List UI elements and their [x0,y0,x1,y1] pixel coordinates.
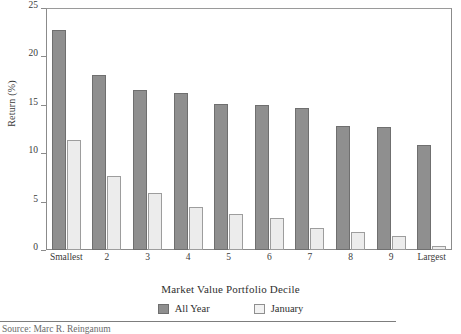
bar-group [92,8,121,250]
bar-all-year[interactable] [174,93,188,250]
legend-label-january: January [271,303,304,314]
y-axis-tick-label: 25 [29,1,39,11]
source-divider [0,321,396,322]
bar-january[interactable] [189,207,203,250]
bar-all-year[interactable] [133,90,147,250]
bar-group [255,8,284,250]
bar-january[interactable] [392,236,406,250]
legend-swatch-january-icon [254,304,265,314]
bar-group [336,8,365,250]
tick-mark [41,250,46,251]
legend-label-all-year: All Year [175,303,210,314]
bar-group [174,8,203,250]
y-axis-tick: 5 [0,202,46,203]
bar-group [417,8,446,250]
y-axis-tick-label: 5 [33,195,38,205]
chart-legend: All Year January [0,303,461,314]
bar-january[interactable] [229,214,243,250]
source-note: Source: Marc R. Reinganum [2,324,111,334]
bar-january[interactable] [148,193,162,250]
bar-group [377,8,406,250]
bar-all-year[interactable] [255,105,269,250]
bar-january[interactable] [310,228,324,250]
y-axis-tick: 15 [0,105,46,106]
bar-all-year[interactable] [417,145,431,250]
bar-all-year[interactable] [377,127,391,250]
bar-all-year[interactable] [52,30,66,250]
x-axis-tick-label: Largest [392,252,461,262]
bar-january[interactable] [351,232,365,250]
y-axis-tick: 0 [0,250,46,251]
y-axis-tick: 20 [0,56,46,57]
legend-item-january[interactable]: January [254,303,304,314]
bar-all-year[interactable] [92,75,106,250]
x-axis-label: Market Value Portfolio Decile [0,283,461,295]
bar-all-year[interactable] [295,108,309,250]
bar-january[interactable] [67,140,81,250]
legend-swatch-all-year-icon [158,304,169,314]
x-axis-tick-labels: Smallest23456789Largest [46,252,452,268]
bar-group [295,8,324,250]
y-axis-label: Return (%) [6,49,17,159]
bar-january[interactable] [270,218,284,250]
bars-layer [46,8,452,250]
bar-group [52,8,81,250]
bar-chart-figure: Return (%) 0510152025 Smallest23456789La… [0,0,461,334]
y-axis-tick: 25 [0,8,46,9]
bar-group [133,8,162,250]
legend-item-all-year[interactable]: All Year [158,303,210,314]
y-axis-tick-label: 10 [29,146,39,156]
y-axis-tick-label: 20 [29,49,39,59]
bar-all-year[interactable] [336,126,350,250]
bar-january[interactable] [432,246,446,250]
bar-group [214,8,243,250]
bar-january[interactable] [107,176,121,250]
y-axis-tick-label: 15 [29,98,39,108]
bar-all-year[interactable] [214,104,228,250]
y-axis-tick: 10 [0,153,46,154]
